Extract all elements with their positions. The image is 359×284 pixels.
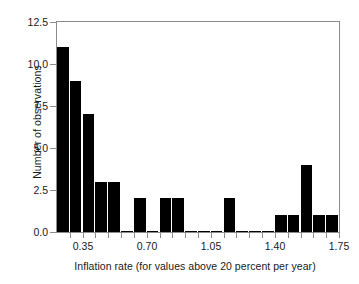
y-axis-tick xyxy=(50,22,56,23)
x-axis-tick xyxy=(160,233,161,238)
histogram-bars xyxy=(57,22,339,232)
x-axis-tick xyxy=(95,233,96,238)
histogram-bar xyxy=(108,182,120,232)
histogram-bar xyxy=(83,114,95,232)
histogram-bar xyxy=(172,198,184,232)
x-axis-tick xyxy=(70,233,71,238)
histogram-bar xyxy=(236,231,248,232)
x-axis-tick-label: 1.05 xyxy=(189,241,233,252)
histogram-bar xyxy=(160,198,172,232)
x-axis-tick xyxy=(134,233,135,238)
histogram-figure: Number of observations 0.02.55.07.510.01… xyxy=(0,0,359,284)
histogram-bar xyxy=(185,231,197,232)
histogram-bar xyxy=(313,215,325,232)
y-axis-tick-label: 5.0 xyxy=(8,143,48,153)
x-axis-tick xyxy=(262,233,263,238)
histogram-bar xyxy=(262,231,274,232)
x-axis-tick xyxy=(249,233,250,238)
x-axis-tick xyxy=(172,233,173,238)
x-axis-tick xyxy=(198,233,199,238)
x-axis-tick xyxy=(224,233,225,238)
y-axis-tick xyxy=(50,232,56,233)
histogram-bar xyxy=(57,47,69,232)
x-axis-tick xyxy=(339,233,340,238)
x-axis-tick xyxy=(326,233,327,238)
x-axis-tick xyxy=(288,233,289,238)
x-axis-tick-label: 1.40 xyxy=(253,241,297,252)
x-axis-tick xyxy=(236,233,237,238)
x-axis-tick xyxy=(83,233,84,238)
x-axis-tick xyxy=(211,233,212,238)
histogram-bar xyxy=(301,165,313,232)
x-axis-tick xyxy=(108,233,109,238)
histogram-bar xyxy=(288,215,300,232)
histogram-bar xyxy=(95,182,107,232)
y-axis-tick xyxy=(50,148,56,149)
y-axis-tick-label: 10.0 xyxy=(8,59,48,69)
histogram-bar xyxy=(224,198,236,232)
histogram-bar xyxy=(249,231,261,232)
x-axis-title: Inflation rate (for values above 20 perc… xyxy=(49,260,341,272)
histogram-bar xyxy=(198,231,210,232)
x-axis-tick-label: 0.70 xyxy=(125,241,169,252)
x-axis-tick-label: 0.35 xyxy=(61,241,105,252)
x-axis-tick xyxy=(313,233,314,238)
y-axis-tick-label: 0.0 xyxy=(8,227,48,237)
y-axis-tick xyxy=(50,190,56,191)
x-axis-tick-label: 1.75 xyxy=(317,241,359,252)
histogram-bar xyxy=(134,198,146,232)
y-axis-tick xyxy=(50,106,56,107)
x-axis-tick xyxy=(275,233,276,238)
y-axis-tick-label: 2.5 xyxy=(8,185,48,195)
y-axis-tick-label: 7.5 xyxy=(8,101,48,111)
histogram-bar xyxy=(275,215,287,232)
x-axis-tick xyxy=(147,233,148,238)
histogram-bar xyxy=(70,81,82,232)
x-axis-tick xyxy=(185,233,186,238)
histogram-bar xyxy=(147,231,159,232)
histogram-bar xyxy=(326,215,338,232)
x-axis-tick xyxy=(121,233,122,238)
y-axis-tick-label: 12.5 xyxy=(8,17,48,27)
y-axis-tick xyxy=(50,64,56,65)
x-axis-tick xyxy=(301,233,302,238)
histogram-bar xyxy=(121,231,133,232)
histogram-bar xyxy=(211,231,223,232)
